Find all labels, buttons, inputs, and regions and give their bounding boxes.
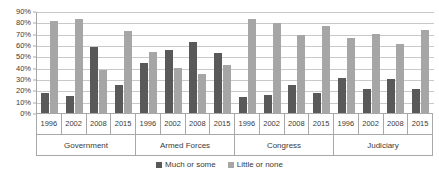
y-axis-tick-label: 50% xyxy=(16,53,31,61)
bar-pair xyxy=(285,12,310,113)
bar xyxy=(99,70,107,113)
bar xyxy=(363,89,371,113)
x-axis-year-label: 1996 xyxy=(136,114,161,134)
legend-swatch-icon xyxy=(156,162,162,168)
bar xyxy=(396,44,404,113)
bar xyxy=(140,63,148,113)
bar-group xyxy=(334,12,433,113)
x-axis-year-label: 2015 xyxy=(111,114,135,134)
x-axis-group-label: Judiciary xyxy=(334,135,432,155)
x-axis-year-label: 2008 xyxy=(384,114,409,134)
y-axis-tick-label: 20% xyxy=(16,87,31,95)
bar xyxy=(223,65,231,113)
legend-swatch-icon xyxy=(228,162,234,168)
bar-pair xyxy=(161,12,186,113)
legend-item[interactable]: Little or none xyxy=(228,160,283,169)
bar-pair xyxy=(260,12,285,113)
bar-pair xyxy=(359,12,384,113)
bar xyxy=(149,52,157,113)
category-group: 1996200220082015Congress xyxy=(235,114,334,155)
bar xyxy=(421,30,429,113)
bar xyxy=(412,89,420,113)
bar xyxy=(297,35,305,113)
chart-legend: Much or someLittle or none xyxy=(0,160,439,169)
y-axis: 0%10%20%30%40%50%60%70%80%90% xyxy=(0,12,34,114)
bar-pair xyxy=(408,12,433,113)
bar-pair xyxy=(384,12,409,113)
bar xyxy=(50,21,58,113)
bar-pair xyxy=(235,12,260,113)
bar xyxy=(214,53,222,113)
y-axis-tick-label: 40% xyxy=(16,65,31,73)
bar xyxy=(264,95,272,113)
x-axis-year-label: 2002 xyxy=(260,114,285,134)
x-axis-year-label: 2015 xyxy=(408,114,432,134)
bar-pair xyxy=(136,12,161,113)
y-axis-tick-label: 70% xyxy=(16,31,31,39)
x-axis-group-label: Armed Forces xyxy=(136,135,234,155)
category-group: 1996200220082015Government xyxy=(36,114,136,155)
x-axis-year-label: 2015 xyxy=(309,114,333,134)
bar-pair xyxy=(37,12,62,113)
bar xyxy=(387,79,395,113)
bar-groups xyxy=(37,12,433,113)
bar xyxy=(165,50,173,113)
x-axis-year-label: 2015 xyxy=(210,114,234,134)
bar-pair xyxy=(334,12,359,113)
bar-pair xyxy=(210,12,235,113)
x-axis-year-label: 2008 xyxy=(285,114,310,134)
bar xyxy=(338,78,346,113)
bar xyxy=(198,74,206,113)
category-year-row: 1996200220082015 xyxy=(235,114,333,135)
x-axis-year-label: 2002 xyxy=(359,114,384,134)
grouped-bar-chart: 0%10%20%30%40%50%60%70%80%90% 1996200220… xyxy=(0,0,439,182)
bar-group xyxy=(235,12,334,113)
y-axis-tick-label: 90% xyxy=(16,8,31,16)
bar xyxy=(174,68,182,113)
bar xyxy=(288,85,296,113)
x-axis-group-label: Congress xyxy=(235,135,333,155)
y-axis-tick-label: 80% xyxy=(16,19,31,27)
x-axis-year-label: 2008 xyxy=(87,114,112,134)
bar xyxy=(124,31,132,113)
bar xyxy=(313,93,321,113)
bar-pair xyxy=(186,12,211,113)
y-axis-tick-label: 60% xyxy=(16,42,31,50)
bar xyxy=(322,26,330,113)
legend-label: Much or some xyxy=(165,160,216,169)
bar-group xyxy=(37,12,136,113)
x-axis-year-label: 2008 xyxy=(186,114,211,134)
bar xyxy=(273,23,281,113)
y-axis-tick-label: 30% xyxy=(16,76,31,84)
y-axis-tick-label: 10% xyxy=(16,99,31,107)
x-axis-year-label: 2002 xyxy=(161,114,186,134)
category-axis: 1996200220082015Government19962002200820… xyxy=(36,114,433,156)
category-group: 1996200220082015Judiciary xyxy=(334,114,433,155)
category-year-row: 1996200220082015 xyxy=(136,114,234,135)
bar xyxy=(66,96,74,113)
bar-pair xyxy=(309,12,334,113)
bar-pair xyxy=(62,12,87,113)
category-year-row: 1996200220082015 xyxy=(334,114,432,135)
x-axis-year-label: 1996 xyxy=(334,114,359,134)
legend-item[interactable]: Much or some xyxy=(156,160,216,169)
bar-pair xyxy=(87,12,112,113)
plot-area xyxy=(36,12,433,114)
bar xyxy=(75,19,83,113)
bar xyxy=(90,47,98,113)
category-group: 1996200220082015Armed Forces xyxy=(136,114,235,155)
category-year-row: 1996200220082015 xyxy=(37,114,135,135)
bar xyxy=(189,42,197,113)
bar xyxy=(239,97,247,113)
x-axis-group-label: Government xyxy=(37,135,135,155)
legend-label: Little or none xyxy=(237,160,283,169)
bar xyxy=(248,19,256,113)
x-axis-year-label: 1996 xyxy=(235,114,260,134)
y-axis-tick-label: 0% xyxy=(20,110,31,118)
bar xyxy=(41,93,49,113)
bar xyxy=(347,38,355,113)
x-axis-year-label: 1996 xyxy=(37,114,62,134)
x-axis-year-label: 2002 xyxy=(62,114,87,134)
bar xyxy=(115,85,123,113)
bar-group xyxy=(136,12,235,113)
